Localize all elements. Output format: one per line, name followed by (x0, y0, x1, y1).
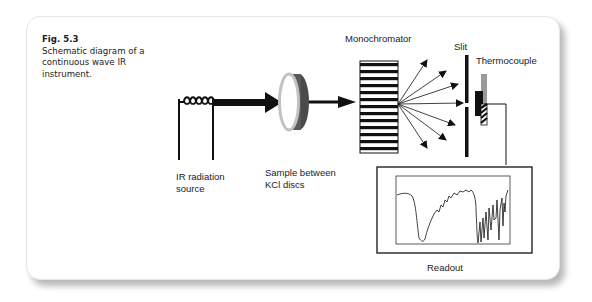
beam-arrow-to-monochromator (309, 96, 356, 108)
dispersed-rays (398, 60, 463, 148)
grating-icon (360, 61, 398, 153)
ir-instrument-diagram (0, 0, 592, 302)
source-label: IR radiation source (176, 171, 225, 194)
readout-label: Readout (427, 262, 463, 274)
coil-filament-icon (179, 97, 214, 160)
slit-label: Slit (454, 41, 467, 53)
spectrum-readout-icon (377, 167, 532, 253)
signal-wire (487, 104, 506, 165)
monochromator-label: Monochromator (345, 33, 412, 45)
thermocouple-label: Thermocouple (476, 55, 537, 67)
thermocouple-icon (475, 74, 487, 125)
slit-icon (465, 55, 469, 157)
sample-label: Sample between KCl discs (265, 167, 336, 190)
beam-arrow-to-sample (213, 92, 282, 113)
disc-icon (280, 74, 310, 130)
